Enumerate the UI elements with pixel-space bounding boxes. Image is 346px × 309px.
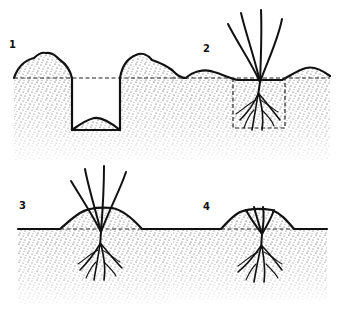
step-1-label: 1 [9, 39, 16, 50]
step-2-label: 2 [203, 43, 210, 54]
planting-diagram: 1 2 [0, 0, 346, 309]
step-3-label: 3 [19, 200, 26, 211]
step-2-panel: 2 [172, 10, 330, 161]
step-4-panel: 4 [173, 201, 327, 302]
step-4-label: 4 [203, 201, 210, 212]
step-1-panel: 1 [9, 39, 172, 162]
step-3-panel: 3 [18, 166, 172, 306]
